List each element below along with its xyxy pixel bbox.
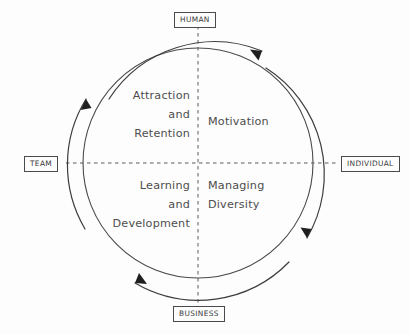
axis-label-individual: INDIVIDUAL — [341, 156, 400, 172]
bottom-arrow — [135, 262, 289, 300]
axis-label-business: BUSINESS — [173, 306, 225, 322]
quadrant-top-left-line-2: and — [104, 105, 190, 124]
diagram-canvas: HUMAN TEAM INDIVIDUAL BUSINESS Attractio… — [0, 0, 410, 334]
quadrant-bottom-left: Learning and Development — [98, 176, 190, 233]
quadrant-top-left-line-1: Attraction — [104, 86, 190, 105]
quadrant-top-left-line-3: Retention — [104, 124, 190, 143]
axis-label-human: HUMAN — [174, 12, 216, 28]
quadrant-top-right-line-1: Motivation — [208, 112, 298, 131]
left-arrow — [67, 99, 91, 229]
quadrant-bottom-left-line-2: and — [98, 195, 190, 214]
quadrant-bottom-right-line-2: Diversity — [208, 195, 300, 214]
quadrant-bottom-left-line-3: Development — [98, 214, 190, 233]
quadrant-bottom-left-line-1: Learning — [98, 176, 190, 195]
axis-label-team: TEAM — [24, 156, 58, 172]
quadrant-bottom-right: Managing Diversity — [208, 176, 300, 214]
quadrant-top-right: Motivation — [208, 112, 298, 131]
quadrant-bottom-right-line-1: Managing — [208, 176, 300, 195]
quadrant-top-left: Attraction and Retention — [104, 86, 190, 143]
